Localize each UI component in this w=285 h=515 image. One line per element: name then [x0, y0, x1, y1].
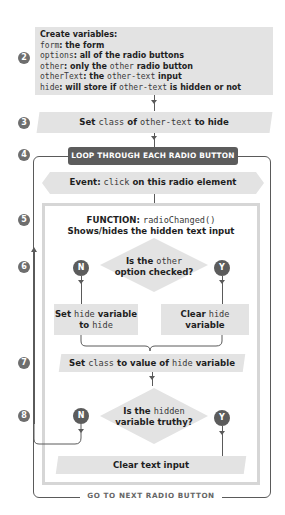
- step-badge-8: 8: [18, 410, 30, 422]
- arrow-down-icon: [151, 100, 157, 104]
- var-line-hide: hide: will store if other-text is hidden…: [40, 83, 275, 94]
- decision-1-text: Is the other option checked?: [100, 256, 208, 278]
- function-title: FUNCTION: radioChanged(): [45, 215, 257, 226]
- step-badge-3: 3: [18, 117, 30, 129]
- decision-2-text: Is the hidden variable truthy?: [100, 406, 208, 428]
- step-badge-7: 7: [18, 357, 30, 369]
- loop-header: LOOP THROUGH EACH RADIO BUTTON: [68, 147, 238, 165]
- step-badge-4: 4: [18, 149, 30, 161]
- step-badge-5: 5: [18, 214, 30, 226]
- yes-badge: Y: [214, 410, 230, 426]
- loop-back-line: [34, 252, 35, 424]
- step-badge-2: 2: [18, 52, 30, 64]
- create-variables-title: Create variables:: [40, 30, 275, 41]
- no-badge: N: [73, 260, 89, 276]
- set-class-value-text: Set class to value of hide variable: [52, 358, 252, 369]
- connector-line: [154, 194, 155, 203]
- arrow-down-icon: [149, 376, 155, 380]
- clear-hide-text: Clear hide variable: [161, 309, 249, 331]
- arrow-down-icon: [219, 431, 225, 435]
- set-class-text: Set class of other-text to hide: [35, 117, 273, 128]
- clear-text-label: Clear text input: [55, 460, 247, 471]
- arrow-down-icon: [78, 280, 84, 284]
- var-line-form: form: the form: [40, 41, 275, 52]
- function-description: Shows/hides the hidden text input: [45, 226, 257, 237]
- arrow-down-icon: [151, 136, 157, 140]
- arrow-down-icon: [78, 429, 84, 433]
- var-line-other: other: only the other radio button: [40, 62, 275, 73]
- no-badge: N: [73, 408, 89, 424]
- set-hide-text: Set hide variable to hide: [54, 309, 138, 331]
- var-line-othertext: otherText: the other-text input: [40, 72, 275, 83]
- event-text: Event: click on this radio element: [42, 177, 264, 188]
- loop-back-path: [30, 424, 90, 449]
- arrow-up-icon: [31, 247, 37, 252]
- loop-footer-label: GO TO NEXT RADIO BUTTON: [80, 491, 222, 500]
- arrow-down-icon: [219, 280, 225, 284]
- merge-brace: [78, 335, 228, 353]
- create-variables-text: Create variables: form: the form options…: [40, 30, 275, 93]
- var-line-options: options: all of the radio buttons: [40, 51, 275, 62]
- step-badge-6: 6: [18, 261, 30, 273]
- yes-badge: Y: [214, 260, 230, 276]
